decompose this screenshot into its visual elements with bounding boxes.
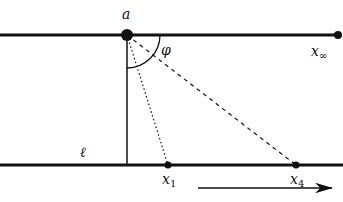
label-ell: ℓ	[80, 144, 86, 160]
point-x-inf	[334, 31, 342, 39]
label-x1: x1	[162, 171, 176, 189]
geometry-diagram: a φ ℓ x∞ x1 x4	[0, 0, 343, 202]
point-x1	[165, 162, 172, 169]
point-a	[121, 29, 133, 41]
label-phi: φ	[161, 42, 171, 58]
label-x4: x4	[290, 171, 304, 189]
label-x-inf: x∞	[311, 43, 327, 61]
dashed-line-a-x4	[127, 35, 296, 165]
label-a: a	[122, 6, 130, 22]
point-x4	[293, 162, 300, 169]
